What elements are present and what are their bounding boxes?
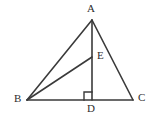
right-angle-marker-d <box>84 92 92 100</box>
vertex-label-a: A <box>87 3 95 14</box>
geometry-figure: A B C D E <box>0 0 163 120</box>
segment-be <box>27 57 92 100</box>
vertex-label-c: C <box>138 92 145 103</box>
vertex-label-d: D <box>87 103 95 114</box>
vertex-label-e: E <box>97 50 104 61</box>
segment-ab <box>27 20 92 100</box>
vertex-label-b: B <box>14 93 21 104</box>
